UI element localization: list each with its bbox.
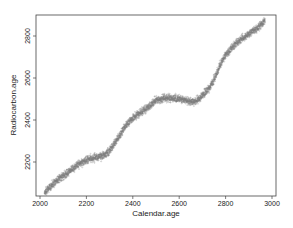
y-axis-label: Radiocarbon.age: [9, 74, 18, 135]
x-tick-label: 3000: [264, 200, 280, 207]
y-tick-label: 2400: [24, 112, 31, 128]
x-tick-label: 2400: [125, 200, 141, 207]
x-axis-label: Calendar.age: [132, 209, 180, 218]
data-points: [44, 17, 266, 195]
y-tick-label: 2800: [24, 28, 31, 44]
x-axis: 200022002400260028003000: [32, 196, 280, 207]
scatter-plot: 200022002400260028003000 220024002600280…: [0, 0, 293, 228]
x-tick-label: 2200: [79, 200, 95, 207]
y-tick-label: 2200: [24, 154, 31, 170]
x-tick-label: 2600: [171, 200, 187, 207]
y-axis: 2200240026002800: [24, 28, 36, 170]
y-tick-label: 2600: [24, 70, 31, 86]
x-tick-label: 2000: [32, 200, 48, 207]
x-tick-label: 2800: [218, 200, 234, 207]
